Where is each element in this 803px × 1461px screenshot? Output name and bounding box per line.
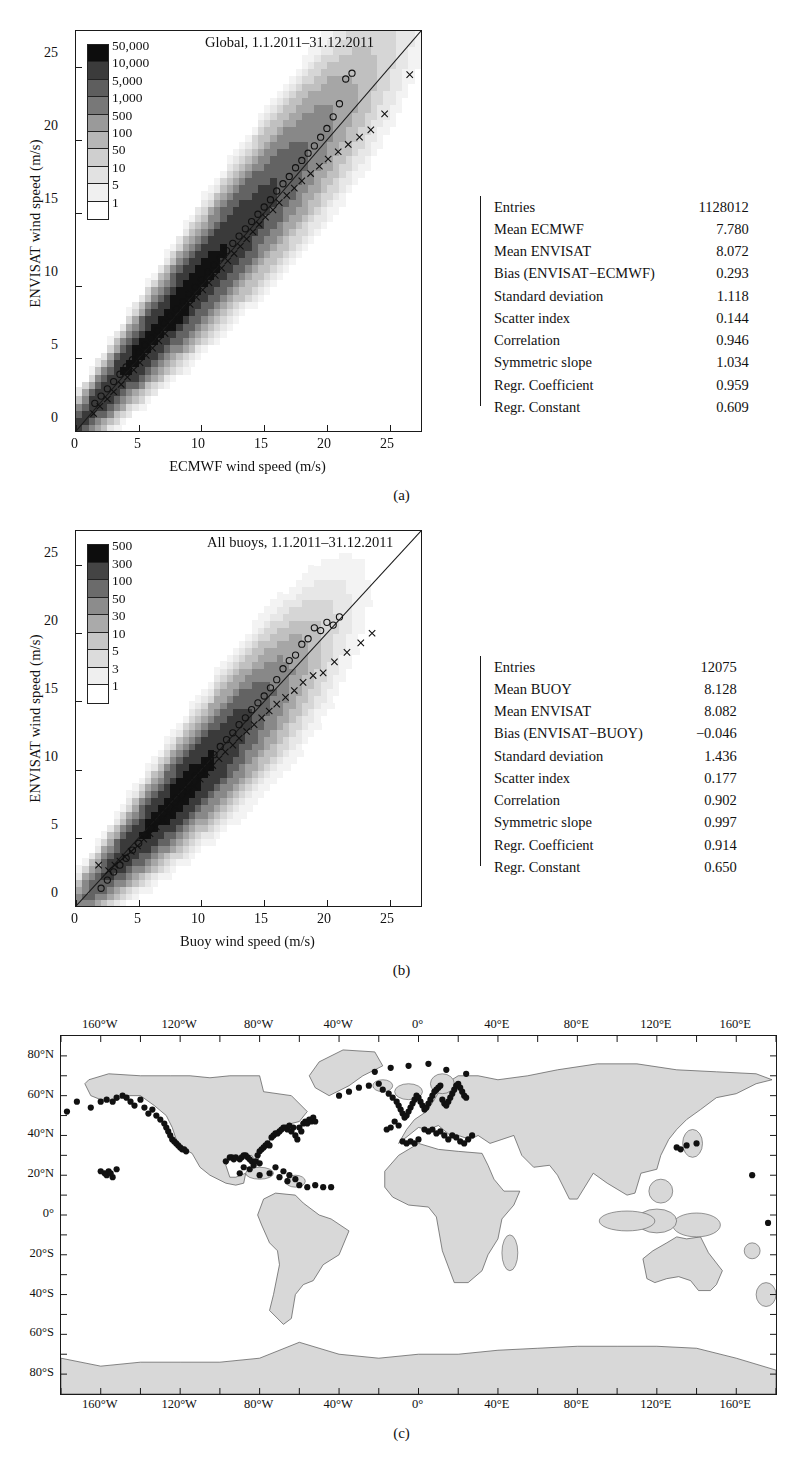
map-longitude-label: 80°W: [239, 1397, 279, 1412]
panel-c-caption: (c): [0, 1425, 803, 1442]
stats-label: Regr. Constant: [494, 397, 671, 419]
axis-tick: [76, 358, 82, 359]
colorbar-swatch: [88, 115, 108, 132]
colorbar-swatch: [88, 202, 108, 219]
colorbar-swatch: [88, 167, 108, 184]
panel-a-caption: (a): [0, 487, 803, 504]
stats-value: 1128012: [671, 196, 749, 218]
map-latitude-label: 20°N: [8, 1166, 54, 1181]
colorbar-label: 5,000: [112, 74, 142, 88]
stats-value: 0.650: [659, 857, 737, 879]
axis-tick: [76, 67, 82, 68]
stats-label: Scatter index: [494, 307, 671, 329]
axis-tick: [76, 140, 82, 141]
stats-row: Correlation0.946: [494, 330, 749, 352]
stats-label: Entries: [494, 196, 671, 218]
stats-value: 0.914: [659, 834, 737, 856]
stats-value: 8.128: [659, 678, 737, 700]
axis-tick: [76, 431, 82, 432]
stats-label: Standard deviation: [494, 745, 659, 767]
stats-row: Mean ENVISAT8.082: [494, 701, 737, 723]
stats-value: 12075: [659, 656, 737, 678]
colorbar-label: 100: [112, 574, 132, 588]
panel-a-xtick-25: 25: [380, 436, 394, 452]
stats-label: Regr. Coefficient: [494, 374, 671, 396]
panel-a-xtick-20: 20: [317, 436, 331, 452]
map-longitude-label: 40°W: [318, 1397, 358, 1412]
stats-value: 1.436: [659, 745, 737, 767]
stats-row: Scatter index0.177: [494, 767, 737, 789]
panel-b-xtick-15: 15: [254, 911, 268, 927]
stats-label: Symmetric slope: [494, 352, 671, 374]
panel-b-y-axis-label: ENVISAT wind speed (m/s): [27, 624, 44, 814]
axis-tick: [139, 900, 140, 906]
map-longitude-label: 120°E: [636, 1397, 676, 1412]
axis-tick: [201, 900, 202, 906]
colorbar-swatch: [88, 615, 108, 633]
stats-value: 0.144: [671, 307, 749, 329]
panel-b-colorbar: [87, 544, 109, 704]
stats-row: Mean ENVISAT8.072: [494, 241, 749, 263]
axis-tick: [327, 425, 328, 431]
panel-b-stats: Entries12075Mean BUOY8.128Mean ENVISAT8.…: [494, 656, 737, 879]
axis-tick: [76, 838, 82, 839]
panel-b-stats-table: Entries12075Mean BUOY8.128Mean ENVISAT8.…: [480, 656, 737, 866]
axis-tick: [327, 900, 328, 906]
stats-label: Mean ECMWF: [494, 218, 671, 240]
stats-label: Bias (ENVISAT−ECMWF): [494, 263, 671, 285]
map-longitude-label: 160°E: [715, 1017, 755, 1032]
stats-label: Mean ENVISAT: [494, 241, 671, 263]
map-latitude-label: 60°N: [8, 1087, 54, 1102]
stats-value: 0.959: [671, 374, 749, 396]
panel-a-xtick-10: 10: [191, 436, 205, 452]
stats-label: Scatter index: [494, 767, 659, 789]
colorbar-swatch: [88, 62, 108, 79]
map-latitude-label: 40°N: [8, 1126, 54, 1141]
panel-a-stats: Entries1128012Mean ECMWF7.780Mean ENVISA…: [494, 196, 749, 419]
stats-label: Mean ENVISAT: [494, 701, 659, 723]
stats-value: 0.609: [671, 397, 749, 419]
stats-label: Bias (ENVISAT−BUOY): [494, 723, 659, 745]
colorbar-label: 300: [112, 557, 132, 571]
panel-c: 160°W120°W80°W40°W0°40°E80°E120°E160°E 1…: [0, 1000, 803, 1461]
colorbar-swatch: [88, 545, 108, 563]
colorbar-label: 500: [112, 109, 132, 123]
map-latitude-label: 80°S: [8, 1365, 54, 1380]
map-latitude-label: 20°S: [8, 1246, 54, 1261]
panel-b-ytick-25: 25: [44, 545, 58, 561]
map-longitude-label: 120°W: [159, 1017, 199, 1032]
colorbar-label: 50: [112, 592, 126, 606]
colorbar-label: 10,000: [112, 56, 149, 70]
stats-row: Bias (ENVISAT−BUOY)−0.046: [494, 723, 737, 745]
stats-row: Symmetric slope0.997: [494, 812, 737, 834]
axis-tick: [76, 701, 82, 702]
stats-row: Entries1128012: [494, 196, 749, 218]
panel-b-xtick-25: 25: [380, 911, 394, 927]
panel-a-xtick-0: 0: [71, 436, 78, 452]
stats-label: Correlation: [494, 790, 659, 812]
map-longitude-label: 160°E: [715, 1397, 755, 1412]
panel-a-ytick-15: 15: [44, 191, 58, 207]
panel-b-ytick-10: 10: [44, 749, 58, 765]
stats-value: 0.293: [671, 263, 749, 285]
map-canvas: [61, 1036, 776, 1394]
map-longitude-label: 160°W: [80, 1017, 120, 1032]
colorbar-label: 3: [112, 662, 119, 676]
map-longitude-label: 40°W: [318, 1017, 358, 1032]
colorbar-label: 500: [112, 539, 132, 553]
stats-value: 0.997: [659, 812, 737, 834]
panel-b-stats-rule: [480, 656, 481, 866]
panel-a-ytick-20: 20: [44, 118, 58, 134]
map-latitude-label: 80°N: [8, 1047, 54, 1062]
panel-b-ytick-0: 0: [51, 885, 58, 901]
colorbar-label: 100: [112, 126, 132, 140]
map-longitude-label: 120°W: [159, 1397, 199, 1412]
colorbar-swatch: [88, 685, 108, 703]
panel-b-ytick-15: 15: [44, 681, 58, 697]
panel-b-xtick-20: 20: [317, 911, 331, 927]
panel-a-stats-table: Entries1128012Mean ECMWF7.780Mean ENVISA…: [480, 196, 749, 406]
stats-row: Standard deviation1.436: [494, 745, 737, 767]
colorbar-label: 1: [112, 196, 119, 210]
colorbar-label: 5: [112, 178, 119, 192]
stats-value: 0.902: [659, 790, 737, 812]
